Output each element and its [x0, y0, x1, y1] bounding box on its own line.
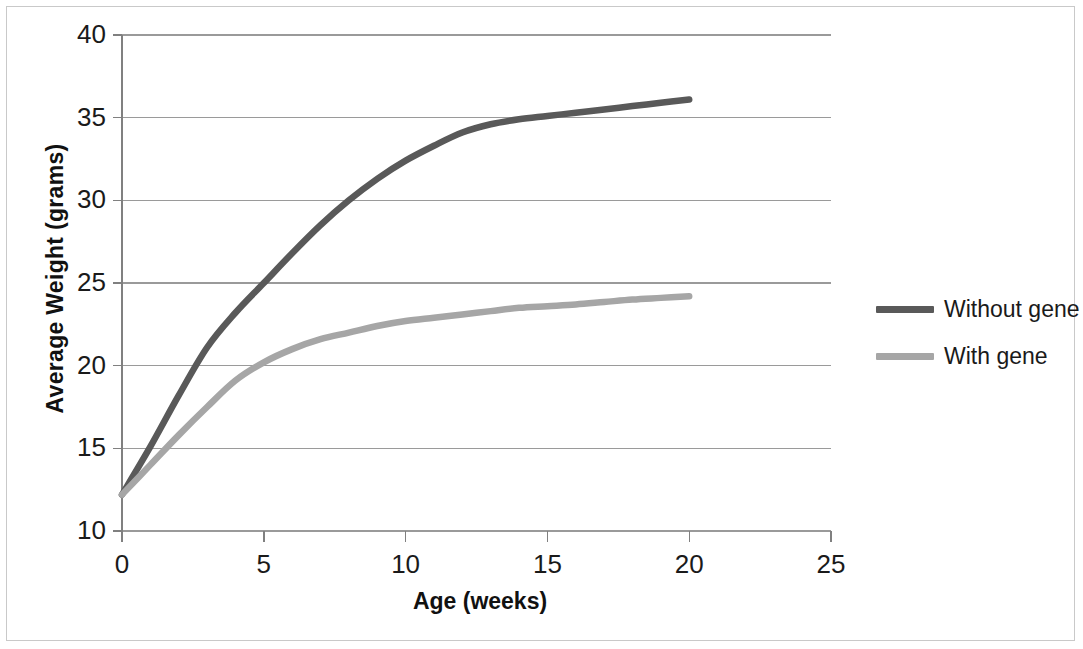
- gridlines-group: [122, 35, 831, 531]
- x-tick-label: 5: [234, 549, 294, 580]
- legend-item-with-gene: With gene: [876, 333, 1080, 380]
- x-tick-label: 25: [801, 549, 861, 580]
- legend-swatch-icon: [876, 353, 934, 360]
- x-tick-label: 15: [517, 549, 577, 580]
- tick-marks-group: [113, 35, 831, 542]
- y-tick-label: 40: [46, 19, 106, 50]
- y-tick-label: 10: [46, 515, 106, 546]
- chart-legend: Without gene With gene: [876, 286, 1080, 380]
- data-series-group: [122, 99, 689, 494]
- x-tick-label: 10: [376, 549, 436, 580]
- y-axis-title: Average Weight (grams): [42, 119, 69, 439]
- legend-label: With gene: [944, 343, 1048, 370]
- x-tick-label: 20: [659, 549, 719, 580]
- legend-item-without-gene: Without gene: [876, 286, 1080, 333]
- legend-swatch-icon: [876, 306, 934, 313]
- x-axis-title: Age (weeks): [330, 588, 630, 615]
- legend-label: Without gene: [944, 296, 1080, 323]
- chart-page: 10152025303540 0510152025 Average Weight…: [0, 0, 1083, 649]
- x-tick-label: 0: [92, 549, 152, 580]
